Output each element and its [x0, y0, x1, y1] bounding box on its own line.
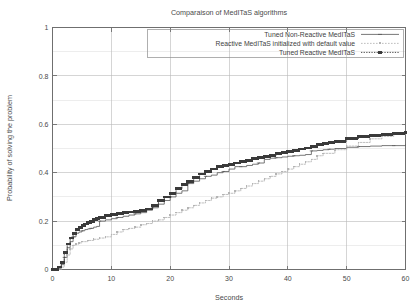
- y-axis-title: Probability of solving the problem: [5, 95, 14, 201]
- legend-label-tuned-reactive: Tuned Reactive MedITaS: [279, 49, 356, 56]
- chart-title: Comparaison of MedITaS algorithms: [171, 8, 288, 17]
- x-tick-label: 20: [166, 275, 174, 282]
- x-tick-label: 10: [107, 275, 115, 282]
- y-tick-label: 0.8: [39, 73, 49, 80]
- legend-label-tuned-non-reactive: Tuned Non-Reactive MedITaS: [264, 31, 355, 38]
- x-tick-label: 50: [343, 275, 351, 282]
- y-tick-label: 0.6: [39, 121, 49, 128]
- y-tick-label: 0.2: [39, 218, 49, 225]
- x-tick-label: 60: [402, 275, 410, 282]
- x-axis-title: Seconds: [215, 293, 243, 302]
- legend-label-reactive-default: Reactive MedITaS initialized with defaul…: [216, 40, 356, 47]
- x-tick-label: 30: [225, 275, 233, 282]
- y-tick-label: 0.4: [39, 169, 49, 176]
- chart-canvas: Comparaison of MedITaS algorithms 010203…: [0, 0, 420, 308]
- x-tick-label: 0: [51, 275, 55, 282]
- chart-figure: Comparaison of MedITaS algorithms 010203…: [0, 0, 420, 308]
- y-tick-label: 1: [45, 24, 49, 31]
- x-tick-label: 40: [284, 275, 292, 282]
- y-tick-label: 0: [45, 266, 49, 273]
